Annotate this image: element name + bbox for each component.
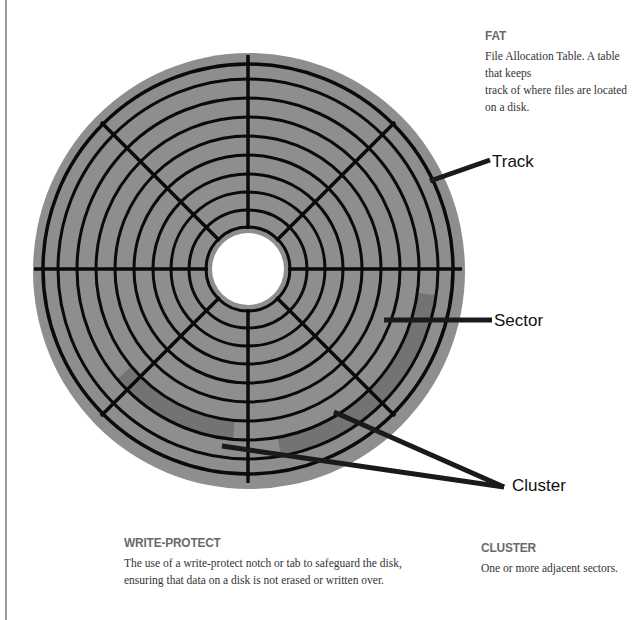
cluster-label: Cluster xyxy=(512,476,566,495)
term-fat-line-2: track of where files are located on a di… xyxy=(485,84,627,113)
spindle-hole xyxy=(212,233,284,305)
term-fat-heading: FAT xyxy=(485,28,617,43)
sector-label: Sector xyxy=(494,311,543,330)
term-cluster-definition: One or more adjacent sectors. xyxy=(481,560,631,577)
term-cluster-line-1: One or more adjacent sectors. xyxy=(481,562,618,574)
term-write-protect: WRITE-PROTECT The use of a write-protect… xyxy=(124,535,484,589)
callout-track: Track xyxy=(430,152,534,181)
track-label: Track xyxy=(492,152,534,171)
term-write-protect-line-1: The use of a write-protect notch or tab … xyxy=(124,557,402,569)
term-fat-line-1: File Allocation Table. A table that keep… xyxy=(485,50,620,79)
term-write-protect-line-2: ensuring that data on a disk is not eras… xyxy=(124,574,384,586)
term-cluster-heading: CLUSTER xyxy=(481,540,613,555)
hole-circle xyxy=(212,233,284,305)
term-fat-definition: File Allocation Table. A table that keep… xyxy=(485,48,635,116)
term-write-protect-definition: The use of a write-protect notch or tab … xyxy=(124,555,484,589)
term-fat: FAT File Allocation Table. A table that … xyxy=(485,28,635,116)
term-cluster: CLUSTER One or more adjacent sectors. xyxy=(481,540,631,577)
term-write-protect-heading: WRITE-PROTECT xyxy=(124,535,441,550)
